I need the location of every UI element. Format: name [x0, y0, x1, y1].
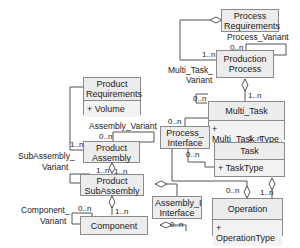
mult-pr-pp: 1..n [202, 51, 215, 59]
mult-op-pi: 0..n [226, 187, 239, 195]
mult-comp-self: 0..n [78, 205, 91, 213]
class-product-requirements[interactable]: Product Requirements + Volume [83, 77, 141, 115]
class-product-assembly[interactable]: Product Assembly [83, 141, 140, 163]
mult-pp-self: 0..n [230, 44, 243, 52]
mult-psa-comp: 1..n [115, 208, 128, 216]
mult-pa-self: 0..n [99, 133, 112, 141]
mult-task-op: 1..n [260, 189, 273, 197]
class-attribute: + OperationType [213, 219, 282, 246]
class-name: Task [215, 143, 284, 159]
label-process-variant: Process_Variant [227, 33, 289, 42]
class-process-interface[interactable]: Process_ Interface [160, 126, 210, 149]
mult-pi-task: 0..n [186, 151, 199, 159]
mult-pa-psa: 1..n [96, 167, 109, 175]
mult-mt-task: 1..n [248, 135, 261, 143]
mult-psa-self: 1..n [114, 168, 127, 176]
mult-mt-self: 0..n [193, 95, 206, 103]
class-multi-task[interactable]: Multi_Task + Multi_Task_Type [208, 101, 285, 140]
class-attribute: + TaskType [215, 159, 284, 176]
class-operation[interactable]: Operation + OperationType [212, 198, 283, 236]
class-name: Operation [213, 199, 282, 219]
label-multi-task-variant-1: Multi_Task_ [168, 66, 213, 75]
mult-pi-mt: 0..n [168, 118, 181, 126]
label-multi-task-variant-2: Variant [186, 76, 212, 85]
class-production-process[interactable]: Production Process [216, 50, 274, 78]
class-name: Process Requirements [222, 10, 278, 32]
mult-pp-mt: 1..n [248, 92, 261, 100]
class-name: Component [81, 217, 147, 232]
class-product-subassembly[interactable]: Product SubAssembly [80, 174, 144, 196]
class-name: Process_ Interface [161, 127, 209, 149]
label-component-variant-1: Component_ [21, 206, 70, 215]
class-name: Production Process [217, 51, 273, 75]
label-subassembly-variant-2: Variant [42, 163, 68, 172]
class-name: Product Assembly [84, 142, 139, 164]
class-attribute: + Volume [84, 100, 140, 117]
label-subassembly-variant-1: SubAssembly_ [18, 152, 75, 161]
class-task[interactable]: Task + TaskType [214, 142, 285, 177]
class-name: Product Requirements [84, 78, 140, 100]
class-name: Assembly_I Interface [153, 197, 201, 219]
label-assembly-variant: Assembly_Variant [89, 122, 157, 131]
class-assembly-interface[interactable]: Assembly_I Interface [152, 196, 202, 219]
mult-prodreq-pa: 1..n [70, 141, 83, 149]
class-name: Product SubAssembly [81, 175, 143, 197]
mult-ai-comp: 0..n [170, 221, 183, 229]
class-component[interactable]: Component [80, 216, 148, 235]
label-component-variant-2: Variant [40, 217, 66, 226]
class-process-requirements[interactable]: Process Requirements [221, 9, 279, 32]
class-name: Multi_Task [209, 102, 284, 120]
